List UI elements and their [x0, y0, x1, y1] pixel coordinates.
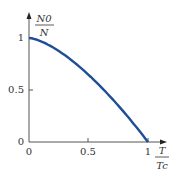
- series-line: [29, 38, 148, 142]
- chart: 1 0.5 0 0 0.5 1 N0 N T Tc: [0, 0, 180, 180]
- x-tick-label: 0: [26, 146, 32, 157]
- x-axis-arrow-icon: [160, 140, 167, 145]
- y-tick-label: 0: [18, 136, 24, 147]
- tick-labels: 1 0.5 0 0 0.5 1: [8, 32, 151, 157]
- x-tick-label: 0.5: [80, 146, 96, 157]
- svg-text:N: N: [39, 27, 50, 38]
- svg-text:Tc: Tc: [156, 160, 168, 171]
- y-tick-label: 0.5: [8, 84, 24, 95]
- svg-text:N0: N0: [35, 13, 52, 24]
- x-axis-label: T Tc: [155, 145, 169, 171]
- x-tick-label: 1: [145, 146, 151, 157]
- y-tick-label: 1: [18, 32, 24, 43]
- y-axis-label: N0 N: [35, 13, 54, 38]
- svg-text:T: T: [159, 145, 167, 156]
- y-axis-arrow-icon: [27, 12, 32, 19]
